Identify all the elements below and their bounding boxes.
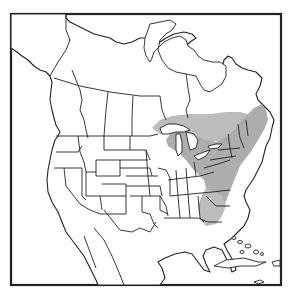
range-map — [0, 0, 288, 295]
lake-michigan — [176, 134, 182, 156]
